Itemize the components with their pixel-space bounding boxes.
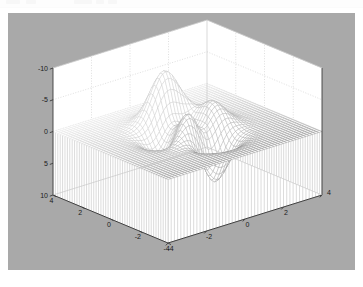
tick-label-x: 2 [284, 209, 288, 216]
tick-label-z: 5 [44, 160, 48, 167]
axes-3d-plot[interactable]: -10-50510420-2-4-4-2024 [8, 13, 355, 270]
tick-mark-z [50, 163, 53, 164]
tick-label-x: 4 [327, 189, 331, 196]
tick-label-y: 2 [78, 209, 82, 216]
matlab-figure-window[interactable]: -10-50510420-2-4-4-2024 [8, 13, 355, 270]
tick-mark-z [50, 68, 53, 69]
figure-canvas: -10-50510420-2-4-4-2024 [0, 0, 363, 287]
tick-label-x: -2 [206, 233, 212, 240]
tick-label-x: -4 [167, 245, 173, 252]
tick-label-y: 4 [50, 197, 54, 204]
tick-label-y: 0 [107, 221, 111, 228]
tick-label-z: 10 [40, 192, 48, 199]
tick-label-x: 0 [246, 221, 250, 228]
tick-mark-z [50, 100, 53, 101]
tick-label-z: -10 [38, 65, 48, 72]
tick-label-y: -2 [135, 233, 141, 240]
tick-mark-z [50, 132, 53, 133]
tick-label-z: 0 [44, 128, 48, 135]
window-chrome-sliver [0, 0, 363, 8]
tick-label-z: -5 [42, 96, 48, 103]
